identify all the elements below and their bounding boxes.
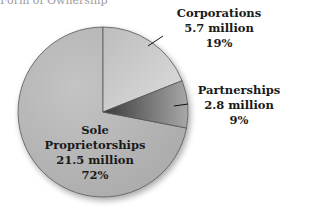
slice-name: Corporations — [164, 6, 274, 21]
slice-value: 5.7 million — [164, 21, 274, 36]
slice-percent: 19% — [164, 36, 274, 51]
slice-value: 21.5 million — [35, 153, 155, 168]
slice-name-line2: Proprietorships — [35, 138, 155, 153]
slice-percent: 9% — [189, 113, 289, 128]
label-partnerships: Partnerships 2.8 million 9% — [189, 83, 289, 128]
slice-value: 2.8 million — [189, 98, 289, 113]
slice-name-line1: Sole — [35, 123, 155, 138]
label-sole-proprietorships: Sole Proprietorships 21.5 million 72% — [35, 123, 155, 183]
slice-name: Partnerships — [189, 83, 289, 98]
slice-percent: 72% — [35, 168, 155, 183]
label-corporations: Corporations 5.7 million 19% — [164, 6, 274, 51]
